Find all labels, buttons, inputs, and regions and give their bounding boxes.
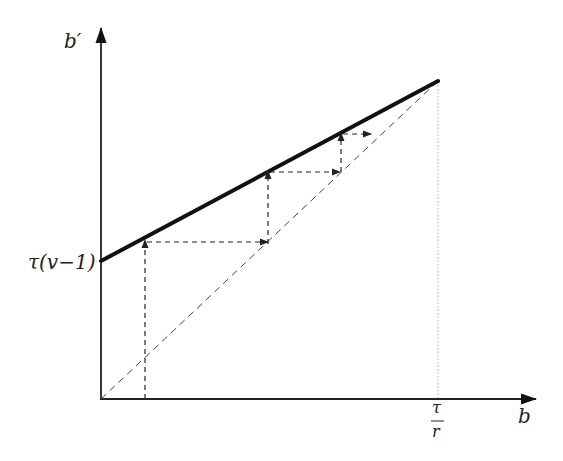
x-tick-tau-over-r: τ r — [431, 398, 444, 441]
tick-numerator: τ — [432, 398, 442, 417]
x-axis-label: b — [518, 404, 531, 428]
tick-denominator: r — [432, 422, 441, 441]
y-intercept-label: τ(v−1) — [28, 250, 95, 274]
cobweb-diagram: b′ b τ(v−1) τ r — [0, 0, 563, 461]
diagonal-45-line — [101, 81, 438, 399]
cobweb-steps — [145, 133, 371, 399]
y-axis-label: b′ — [64, 29, 82, 53]
policy-line — [101, 81, 438, 261]
